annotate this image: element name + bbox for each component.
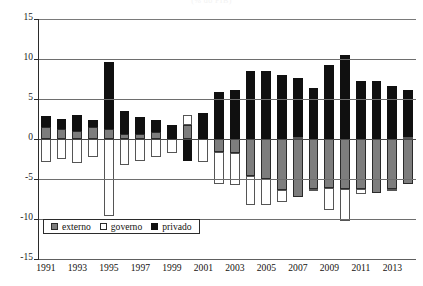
y-tick-mark-0 (34, 139, 39, 140)
bar-segment-externo (214, 139, 224, 152)
bar-segment-privado (324, 65, 334, 139)
bar-segment-privado (230, 90, 240, 139)
bar-segment-externo (72, 131, 82, 139)
y-tick-mark--10 (34, 219, 39, 220)
bar-segment-externo (246, 139, 256, 176)
chart-legend: externo governo privado (43, 219, 200, 234)
bar-segment-privado (135, 117, 145, 135)
bar-segment-governo (324, 188, 334, 210)
legend-swatch-externo-icon (51, 223, 58, 230)
bar-segment-privado (57, 119, 67, 129)
bar-segment-governo (104, 139, 114, 216)
y-tick-label-0: 0 (0, 132, 33, 142)
legend-item-externo: externo (51, 222, 91, 232)
gridline-10 (38, 59, 416, 60)
bar-segment-privado (309, 88, 319, 139)
legend-label-privado: privado (162, 222, 191, 232)
bar-segment-governo (151, 139, 161, 157)
y-tick-label-10: 10 (0, 52, 33, 62)
bar-segment-governo (387, 189, 397, 191)
bar-segment-externo (293, 139, 303, 197)
bar-segment-governo (183, 115, 193, 125)
bar-segment-externo (309, 139, 319, 189)
y-tick-mark-15 (34, 19, 39, 20)
gridline-0 (38, 139, 416, 140)
bar-segment-privado (403, 90, 413, 137)
bar-segment-externo (356, 139, 366, 189)
bar-segment-governo (41, 139, 51, 162)
bar-segment-privado (88, 120, 98, 127)
y-tick-label--5: -5 (0, 172, 33, 182)
y-tick-label--10: -10 (0, 212, 33, 222)
bar-segment-governo (230, 153, 240, 185)
x-tick-label-1995: 1995 (99, 262, 118, 273)
bar-segment-privado (246, 71, 256, 139)
bar-segment-privado (372, 81, 382, 139)
legend-item-privado: privado (151, 222, 191, 232)
bar-segment-externo (261, 139, 271, 179)
x-tick-label-1997: 1997 (131, 262, 150, 273)
x-tick-label-2009: 2009 (320, 262, 339, 273)
bar-segment-governo (57, 139, 67, 159)
bar-segment-externo (104, 129, 114, 139)
x-axis-tick-labels: 1991199319951997199920012003200520072009… (38, 262, 416, 282)
bar-segment-externo (230, 139, 240, 153)
y-tick-mark-10 (34, 59, 39, 60)
gridline-15 (38, 19, 416, 20)
gridline-5 (38, 99, 416, 100)
bar-segment-privado (167, 125, 177, 139)
y-tick-mark-5 (34, 99, 39, 100)
bar-segment-governo (309, 189, 319, 191)
bar-segment-governo (88, 139, 98, 157)
y-tick-mark--5 (34, 179, 39, 180)
bar-segment-externo (183, 125, 193, 139)
bar-segment-externo (387, 139, 397, 189)
y-tick-label-5: 5 (0, 92, 33, 102)
bar-segment-privado (41, 116, 51, 127)
bar-segment-privado (183, 139, 193, 161)
x-tick-label-2003: 2003 (225, 262, 244, 273)
x-tick-label-1999: 1999 (162, 262, 181, 273)
legend-item-governo: governo (100, 222, 142, 232)
bar-segment-governo (246, 176, 256, 206)
x-tick-label-1991: 1991 (36, 262, 55, 273)
bar-segment-privado (293, 78, 303, 137)
legend-label-externo: externo (62, 222, 91, 232)
bar-segment-externo (41, 127, 51, 139)
x-tick-label-2005: 2005 (257, 262, 276, 273)
gridline--5 (38, 179, 416, 180)
x-tick-label-2013: 2013 (383, 262, 402, 273)
bar-segment-governo (120, 139, 130, 165)
bar-segment-externo (372, 139, 382, 193)
bar-segment-privado (72, 115, 82, 131)
chart-title: (% do PIB) (0, 0, 423, 5)
bar-segment-privado (387, 86, 397, 139)
bar-segment-governo (198, 139, 208, 162)
bar-segment-governo (72, 139, 82, 163)
bar-segment-governo (356, 189, 366, 194)
x-tick-label-2011: 2011 (351, 262, 370, 273)
chart-root: (% do PIB) 151050-5-10-15 19911993199519… (0, 0, 423, 286)
legend-swatch-governo-icon (100, 223, 107, 230)
bar-segment-privado (198, 113, 208, 139)
bar-segment-governo (261, 179, 271, 205)
bar-segment-governo (167, 139, 177, 153)
x-tick-label-2001: 2001 (194, 262, 213, 273)
x-tick-label-1993: 1993 (68, 262, 87, 273)
bar-segment-privado (340, 55, 350, 139)
y-tick-label--15: -15 (0, 252, 33, 262)
bar-segment-privado (104, 62, 114, 129)
bar-segment-externo (324, 139, 334, 188)
bar-segment-privado (151, 120, 161, 132)
bar-segment-governo (135, 139, 145, 161)
bar-segment-privado (277, 75, 287, 139)
bar-segment-externo (88, 127, 98, 139)
bar-segment-externo (151, 132, 161, 139)
y-tick-mark--15 (34, 259, 39, 260)
bar-segment-governo (340, 189, 350, 221)
gridline--15 (38, 259, 416, 260)
y-tick-label-15: 15 (0, 12, 33, 22)
x-tick-label-2007: 2007 (288, 262, 307, 273)
bar-segment-governo (277, 190, 287, 202)
bar-segment-externo (57, 129, 67, 139)
